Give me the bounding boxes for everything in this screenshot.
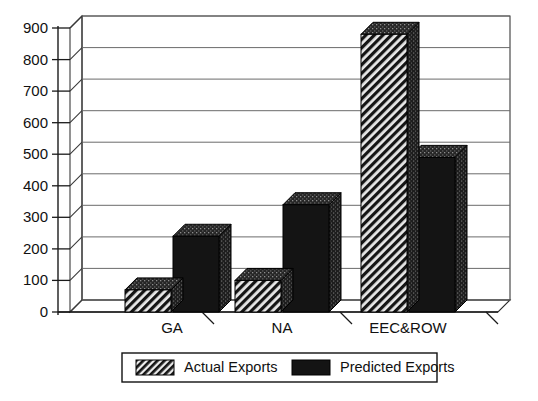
chart-canvas: 900 800 700 600 500 400 300 200 100 0 GA… (0, 0, 538, 401)
bar-front-face (125, 290, 171, 312)
y-tick-label: 700 (23, 82, 48, 99)
bar-eec-row-actual-exports (361, 22, 419, 312)
category-label-eec-row: EEC&ROW (369, 319, 447, 336)
category-label-na: NA (272, 319, 293, 336)
solid-swatch (292, 360, 330, 375)
y-tick-label: 900 (23, 19, 48, 36)
bar-front-face (235, 280, 281, 312)
legend-label-actual: Actual Exports (184, 359, 278, 375)
bar-side-face (219, 224, 231, 312)
y-tick-label: 800 (23, 51, 48, 68)
y-tick-label: 600 (23, 114, 48, 131)
bar-na-actual-exports (235, 268, 293, 312)
y-tick-label: 200 (23, 240, 48, 257)
legend-entry-predicted-exports[interactable]: Predicted Exports (292, 359, 454, 375)
category-label-ga: GA (161, 319, 183, 336)
legend-label-predicted: Predicted Exports (340, 359, 454, 375)
bar-front-face (361, 34, 407, 312)
bar-ga-actual-exports (125, 278, 183, 312)
bar-chart: 900 800 700 600 500 400 300 200 100 0 GA… (0, 0, 538, 401)
y-tick-label: 0 (40, 303, 48, 320)
bar-side-face (329, 193, 341, 312)
legend: Actual Exports Predicted Exports (122, 353, 454, 382)
legend-entry-actual-exports[interactable]: Actual Exports (136, 359, 278, 375)
y-tick-label: 300 (23, 208, 48, 225)
hatched-swatch (136, 360, 174, 375)
y-tick-label: 400 (23, 177, 48, 194)
bar-side-face (407, 22, 419, 312)
bar-side-face (455, 145, 467, 312)
y-tick-label: 100 (23, 271, 48, 288)
y-tick-label: 500 (23, 145, 48, 162)
